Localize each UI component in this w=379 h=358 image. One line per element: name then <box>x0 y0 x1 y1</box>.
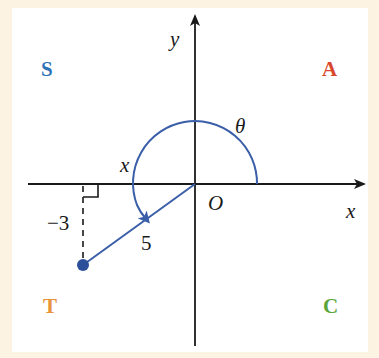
quadrant-label-c: C <box>323 294 338 318</box>
quadrant-label-a: A <box>322 57 338 81</box>
theta-label: θ <box>235 114 245 138</box>
x-axis-label: x <box>345 199 356 223</box>
reference-angle-label: x <box>119 153 130 177</box>
right-angle-marker <box>83 184 98 197</box>
quadrant-label-s: S <box>41 57 53 81</box>
hypotenuse-label: 5 <box>141 231 152 255</box>
terminal-ray <box>83 184 195 265</box>
y-axis-label: y <box>168 27 180 51</box>
terminal-point <box>77 259 89 271</box>
unit-circle-diagram: S A T C y x O θ x −3 5 <box>0 0 379 358</box>
quadrant-label-t: T <box>43 294 57 318</box>
origin-label: O <box>208 191 223 215</box>
vertical-side-label: −3 <box>47 211 69 235</box>
